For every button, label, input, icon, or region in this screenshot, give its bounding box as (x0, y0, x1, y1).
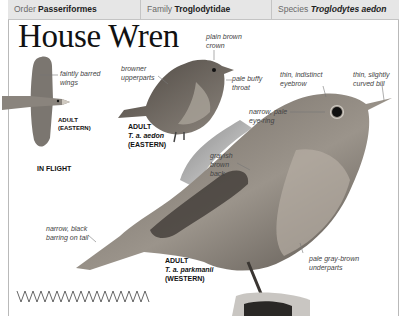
note-line: crown (206, 41, 242, 50)
note-line: narrow, pale (249, 107, 287, 116)
flight-adult-tag: ADULT (EASTERN) (58, 116, 91, 132)
tag-line: (EASTERN) (128, 140, 166, 149)
tag-line: (EASTERN) (58, 124, 91, 132)
tag-line: T. a. aedon (128, 131, 166, 140)
note-line: throat (232, 83, 262, 92)
eastern-adult-tag: ADULT T. a. aedon (EASTERN) (128, 122, 166, 149)
note-thin-indistinct-eyebrow: thin, indistinct eyebrow (280, 70, 322, 88)
note-narrow-black-barring-tail: narrow, black barring on tail (46, 224, 88, 242)
western-adult-tag: ADULT T. a. parkmanii (WESTERN) (165, 256, 214, 283)
in-flight-caption: IN FLIGHT (37, 164, 71, 173)
note-line: browner (121, 64, 154, 73)
note-faintly-barred-wings: faintly barred wings (60, 69, 100, 87)
note-plain-brown-crown: plain brown crown (206, 32, 242, 50)
note-browner-upperparts: browner upperparts (121, 64, 154, 82)
note-line: upperparts (121, 73, 154, 82)
tag-line: ADULT (165, 256, 214, 265)
species-page: Order Passeriformes Family Troglodytidae… (0, 0, 406, 316)
note-line: thin, slightly (353, 70, 390, 79)
note-line: curved bill (353, 79, 390, 88)
note-line: eyebrow (280, 79, 322, 88)
note-line: pale buffy (232, 74, 262, 83)
note-line: plain brown (206, 32, 242, 41)
note-pale-gray-brown-underparts: pale gray-brown underparts (309, 254, 359, 272)
tag-line: ADULT (128, 122, 166, 131)
note-line: grayish (210, 151, 233, 160)
note-line: pale gray-brown (309, 254, 359, 263)
tag-line: (WESTERN) (165, 274, 214, 283)
note-line: underparts (309, 263, 359, 272)
note-line: wings (60, 78, 100, 87)
note-narrow-pale-eye-ring: narrow, pale eye-ring (249, 107, 287, 125)
zigzag-flight-pattern-icon (17, 291, 149, 302)
note-line: faintly barred (60, 69, 100, 78)
note-line: barring on tail (46, 233, 88, 242)
note-line: narrow, black (46, 224, 88, 233)
note-line: brown (210, 160, 233, 169)
note-line: eye-ring (249, 116, 287, 125)
tag-line: ADULT (58, 116, 91, 124)
note-thin-curved-bill: thin, slightly curved bill (353, 70, 390, 88)
tag-line: T. a. parkmanii (165, 265, 214, 274)
note-pale-buffy-throat: pale buffy throat (232, 74, 262, 92)
note-line: thin, indistinct (280, 70, 322, 79)
note-line: back (210, 169, 233, 178)
note-grayish-brown-back: grayish brown back (210, 151, 233, 178)
